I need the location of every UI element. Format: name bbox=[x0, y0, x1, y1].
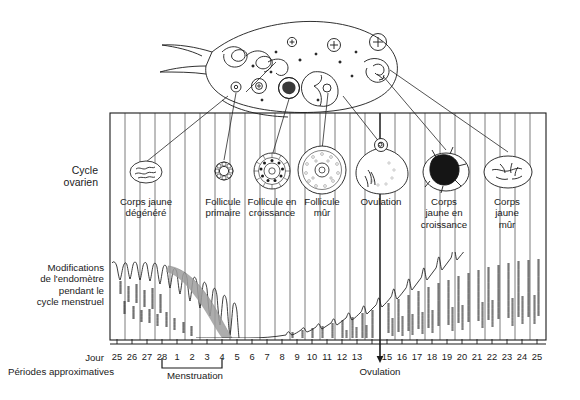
day-tick-9-12: 9 bbox=[289, 352, 305, 362]
endometrium-baseline-curve bbox=[196, 225, 526, 338]
day-tick-8-11: 8 bbox=[274, 352, 290, 362]
stage-icon-follicule-primaire bbox=[215, 162, 233, 180]
stage-label-ovulation: Ovulation bbox=[350, 196, 412, 207]
day-tick-2-5: 2 bbox=[184, 352, 200, 362]
stage-label-corps-jaune-croissance: Corps jaune en croissance bbox=[414, 196, 474, 230]
label-endometre: Modifications de l'endomètre pendant le … bbox=[6, 262, 104, 308]
stage-label-corps-jaune-mur: Corps jaune mûr bbox=[480, 196, 534, 230]
label-menstruation: Menstruation bbox=[167, 370, 223, 381]
day-tick-21-24: 21 bbox=[469, 352, 485, 362]
day-tick-6-9: 6 bbox=[244, 352, 260, 362]
stage-icon-corps-jaune-croissance bbox=[423, 147, 469, 193]
stage-icon-follicule-croissance bbox=[254, 153, 290, 189]
stage-label-follicule-mur: Follicule mûr bbox=[294, 196, 350, 219]
day-tick-24-27: 24 bbox=[514, 352, 530, 362]
day-tick-25-28: 25 bbox=[529, 352, 545, 362]
day-tick-4-7: 4 bbox=[214, 352, 230, 362]
endometrium-glands-deep bbox=[346, 295, 535, 338]
day-tick-25-0: 25 bbox=[109, 352, 125, 362]
stage-icon-corps-jaune-mur bbox=[484, 156, 532, 188]
day-tick-19-22: 19 bbox=[439, 352, 455, 362]
day-tick-17-20: 17 bbox=[409, 352, 425, 362]
label-ovulation-axis: Ovulation bbox=[348, 366, 412, 377]
day-tick-22-25: 22 bbox=[484, 352, 500, 362]
label-jour: Jour bbox=[58, 352, 104, 363]
stage-icon-follicule-mur bbox=[298, 146, 346, 194]
endometrium-graph bbox=[112, 225, 539, 345]
day-tick-13-16: 13 bbox=[349, 352, 365, 362]
stage-label-corps-jaune-degenere: Corps jaune dégénéré bbox=[110, 196, 182, 219]
day-tick-26-1: 26 bbox=[124, 352, 140, 362]
day-tick-23-26: 23 bbox=[499, 352, 515, 362]
day-tick-10-13: 10 bbox=[304, 352, 320, 362]
stage-icon-corps-jaune-degenere bbox=[130, 161, 162, 183]
day-tick-15-18: 15 bbox=[379, 352, 395, 362]
day-tick-11-14: 11 bbox=[319, 352, 335, 362]
label-cycle-ovarien: Cycle ovarien bbox=[10, 164, 98, 189]
day-tick-3-6: 3 bbox=[199, 352, 215, 362]
day-tick-1-4: 1 bbox=[169, 352, 185, 362]
day-tick-28-3: 28 bbox=[154, 352, 170, 362]
day-tick-18-21: 18 bbox=[424, 352, 440, 362]
label-periodes-approximatives: Périodes approximatives bbox=[8, 366, 114, 377]
day-tick-12-15: 12 bbox=[334, 352, 350, 362]
ovary-cross-section-illustration bbox=[160, 21, 397, 117]
day-tick-7-10: 7 bbox=[259, 352, 275, 362]
day-tick-16-19: 16 bbox=[394, 352, 410, 362]
stage-icon-ovulation bbox=[356, 139, 408, 195]
day-tick-20-23: 20 bbox=[454, 352, 470, 362]
endometrium-glands-luteal bbox=[292, 259, 539, 338]
day-tick-27-2: 27 bbox=[139, 352, 155, 362]
day-tick-5-8: 5 bbox=[229, 352, 245, 362]
